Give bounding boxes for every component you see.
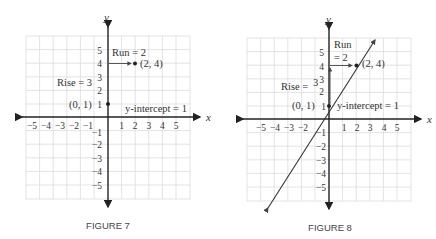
intercept-label: y-intercept = 1 <box>125 103 187 114</box>
svg-text:5: 5 <box>319 48 324 58</box>
svg-text:2: 2 <box>355 123 360 133</box>
svg-text:1: 1 <box>342 123 347 133</box>
point-a-label: (0, 1) <box>69 99 92 111</box>
svg-text:4: 4 <box>97 59 102 69</box>
figure-caption: FIGURE 8 <box>308 222 352 233</box>
y-axis-label: y <box>325 13 331 25</box>
x-axis-label: x <box>205 111 211 123</box>
svg-text:5: 5 <box>174 121 179 131</box>
svg-text:−3: −3 <box>284 123 294 133</box>
run-label-line2: = 2 <box>334 52 348 63</box>
rise-label: Rise = <box>281 81 308 92</box>
point-2-4 <box>133 62 137 66</box>
intercept-label: y-intercept = 1 <box>337 100 399 111</box>
point-2-4 <box>355 64 359 68</box>
x-tick-labels: −5 −4 −3 −2 −1 1 2 3 4 5 <box>27 121 179 131</box>
svg-text:3: 3 <box>368 123 373 133</box>
svg-text:−4: −4 <box>316 169 326 179</box>
x-axis-label: x <box>426 113 432 125</box>
svg-text:−4: −4 <box>92 167 102 177</box>
svg-text:−5: −5 <box>27 121 37 131</box>
y-axis-label: y <box>103 11 109 23</box>
svg-text:2: 2 <box>133 121 138 131</box>
y-tick-labels: 5 4 3 2 1 −1 −2 −3 −4 −5 <box>316 48 326 193</box>
svg-text:2: 2 <box>319 87 324 97</box>
svg-text:1: 1 <box>321 102 326 112</box>
point-0-1 <box>327 104 331 108</box>
x-tick-labels: −5 −4 −3 −2 1 2 3 4 5 <box>256 123 400 133</box>
svg-text:−2: −2 <box>69 121 79 131</box>
svg-text:4: 4 <box>319 62 324 72</box>
svg-text:−2: −2 <box>92 140 102 150</box>
svg-text:−4: −4 <box>270 123 280 133</box>
svg-text:−3: −3 <box>55 121 65 131</box>
point-a-label: (0, 1) <box>292 100 315 112</box>
svg-text:−4: −4 <box>41 121 51 131</box>
svg-text:3: 3 <box>146 121 151 131</box>
run-label: Run = 2 <box>112 47 146 58</box>
svg-text:5: 5 <box>97 46 102 56</box>
svg-text:2: 2 <box>97 86 102 96</box>
y-tick-labels: 5 4 3 2 1 −1 −2 −3 −4 −5 <box>92 46 102 191</box>
svg-text:1: 1 <box>119 121 124 131</box>
svg-text:−5: −5 <box>92 181 102 191</box>
svg-text:−5: −5 <box>316 183 326 193</box>
svg-text:3: 3 <box>97 73 102 83</box>
svg-text:−2: −2 <box>298 123 308 133</box>
point-b-label: (2, 4) <box>362 58 385 70</box>
svg-text:3: 3 <box>319 75 324 85</box>
svg-text:1: 1 <box>97 100 102 110</box>
figures-canvas: x y −5 −4 −3 −2 −1 1 2 3 4 5 5 4 3 2 1 −… <box>0 0 436 239</box>
rise-label: Rise = 3 <box>57 77 92 88</box>
svg-text:−1: −1 <box>92 128 102 138</box>
svg-text:4: 4 <box>382 123 387 133</box>
figure-8: x y −5 −4 −3 −2 1 2 3 4 5 5 4 3 2 1 −1 −… <box>243 13 432 233</box>
svg-text:−2: −2 <box>316 142 326 152</box>
svg-text:−3: −3 <box>316 156 326 166</box>
svg-text:5: 5 <box>395 123 400 133</box>
svg-text:4: 4 <box>160 121 165 131</box>
svg-text:−3: −3 <box>92 154 102 164</box>
point-0-1 <box>106 102 110 106</box>
run-label-line1: Run <box>334 39 352 50</box>
point-b-label: (2, 4) <box>140 58 163 70</box>
figure-7: x y −5 −4 −3 −2 −1 1 2 3 4 5 5 4 3 2 1 −… <box>22 11 211 231</box>
figure-caption: FIGURE 7 <box>86 220 130 231</box>
svg-text:−5: −5 <box>256 123 266 133</box>
rise-value: 3 <box>313 77 318 88</box>
